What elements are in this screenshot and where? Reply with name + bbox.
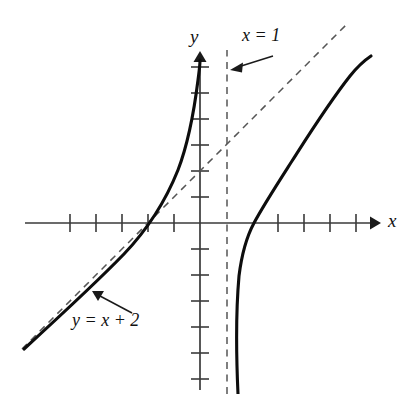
vertical-asymptote-label: x = 1	[242, 25, 280, 46]
axes-group	[25, 51, 381, 390]
oblique-asymptote-dashed-line	[22, 25, 346, 349]
curve-left-branch	[24, 60, 200, 349]
plot-canvas	[0, 0, 418, 394]
graph-figure: y x x = 1 y = x + 2	[0, 0, 418, 394]
x-axis-label: x	[388, 210, 396, 232]
oblique-asymptote-arrowhead	[92, 291, 104, 301]
annotation-arrows	[92, 56, 273, 313]
vertical-asymptote-arrow-shaft	[238, 56, 273, 67]
y-axis-label: y	[190, 26, 198, 48]
oblique-asymptote-label: y = x + 2	[72, 310, 139, 331]
vertical-asymptote-arrowhead	[230, 63, 243, 73]
x-axis-arrowhead	[370, 217, 381, 230]
